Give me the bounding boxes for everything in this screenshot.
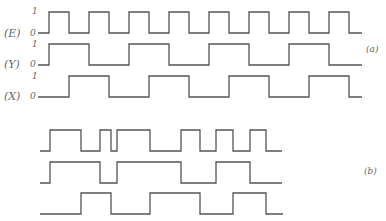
waveform-x: [38, 76, 362, 97]
waveform-b-1: [40, 130, 282, 151]
timing-diagram: (E) 0 1 (Y) 0 1 (X) 0 1 (a) (b): [0, 0, 386, 221]
level-1-y: 1: [32, 39, 38, 49]
part-a-label: (a): [366, 44, 379, 54]
level-0-e: 0: [30, 28, 36, 38]
part-a: (E) 0 1 (Y) 0 1 (X) 0 1 (a): [4, 6, 379, 103]
part-b: (b): [40, 130, 377, 214]
level-0-x: 0: [30, 91, 36, 101]
signal-label-e: (E): [4, 27, 21, 40]
waveform-y: [38, 44, 362, 65]
signal-label-x: (X): [4, 90, 20, 103]
signal-label-y: (Y): [4, 58, 20, 71]
level-0-y: 0: [30, 59, 36, 69]
part-b-label: (b): [364, 166, 377, 176]
waveform-e: [38, 12, 362, 33]
level-1-e: 1: [32, 6, 38, 16]
level-1-x: 1: [32, 71, 38, 81]
waveform-b-3: [40, 193, 283, 214]
waveform-b-2: [40, 162, 282, 183]
